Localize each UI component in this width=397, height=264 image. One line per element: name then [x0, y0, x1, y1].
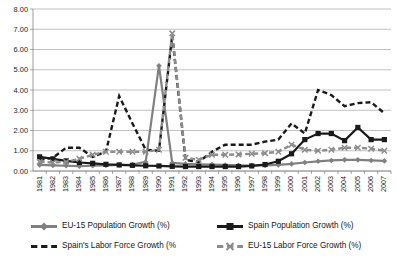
y-axis-tick-label: 8.00 [14, 5, 28, 14]
y-axis-tick-label: 7.00 [14, 25, 28, 34]
x-axis-tick-label: 1985 [88, 176, 97, 192]
data-point-marker [368, 158, 374, 164]
data-point-marker [329, 158, 335, 164]
data-point-marker [342, 157, 348, 163]
x-axis-tick-label: 2004 [339, 176, 348, 192]
data-point-marker [143, 163, 148, 168]
line-chart-plot: 0.001.002.003.004.005.006.007.008.001981… [0, 0, 397, 216]
data-point-marker [130, 163, 135, 168]
data-point-marker [289, 161, 295, 167]
x-axis-tick-label: 1990 [154, 176, 163, 192]
data-point-marker [103, 162, 108, 167]
data-point-marker [382, 137, 387, 142]
x-axis-tick-label: 1994 [207, 176, 216, 192]
x-axis-tick-label: 1995 [220, 176, 229, 192]
x-axis-tick-label: 1981 [35, 176, 44, 192]
legend-swatch-x-icon [216, 241, 244, 252]
x-axis-tick-label: 1982 [48, 176, 57, 192]
x-axis-tick-label: 2006 [366, 176, 375, 192]
y-axis-tick-label: 0.00 [14, 167, 28, 176]
data-point-marker [302, 137, 307, 142]
data-point-marker [170, 164, 175, 169]
legend-item-0[interactable]: EU-15 Population Growth (%) [30, 221, 216, 232]
data-point-marker [183, 164, 188, 169]
data-point-marker [355, 125, 360, 130]
data-point-marker [355, 157, 361, 163]
x-axis-tick-label: 2007 [379, 176, 388, 192]
x-axis-tick-label: 2000 [286, 176, 295, 192]
x-axis-tick-label: 2001 [300, 176, 309, 192]
chart-container: 0.001.002.003.004.005.006.007.008.001981… [0, 0, 397, 264]
x-axis-tick-label: 1996 [233, 176, 242, 192]
chart-legend: EU-15 Population Growth (%)Spain Populat… [30, 216, 390, 256]
legend-item-2[interactable]: Spain's Labor Force Growth (% [30, 241, 216, 252]
data-point-marker [315, 131, 320, 136]
data-point-marker [156, 163, 161, 168]
x-axis-tick-label: 1998 [260, 176, 269, 192]
y-axis-tick-label: 6.00 [14, 45, 28, 54]
legend-item-1[interactable]: Spain Population Growth (%) [216, 221, 390, 232]
x-axis-tick-label: 1983 [61, 176, 70, 192]
x-axis-tick-label: 1986 [101, 176, 110, 192]
data-point-marker [196, 164, 201, 169]
data-point-marker [262, 162, 267, 167]
x-axis-tick-label: 2003 [326, 176, 335, 192]
data-point-marker [117, 162, 122, 167]
data-point-marker [369, 137, 374, 142]
data-point-marker [329, 131, 334, 136]
data-point-marker [289, 151, 294, 156]
x-axis-tick-label: 1987 [114, 176, 123, 192]
x-axis-tick-label: 1988 [127, 176, 136, 192]
data-point-marker [223, 164, 228, 169]
x-axis-tick-label: 2005 [353, 176, 362, 192]
y-axis-tick-label: 5.00 [14, 65, 28, 74]
series-line-3 [40, 33, 385, 162]
data-point-marker [382, 158, 388, 164]
y-axis-tick-label: 3.00 [14, 106, 28, 115]
x-axis-tick-label: 2002 [313, 176, 322, 192]
legend-label: Spain's Labor Force Growth (% [62, 242, 176, 250]
legend-swatch-square-icon [216, 221, 244, 232]
legend-item-3[interactable]: EU-15 Labor Force Growth (%) [216, 241, 390, 252]
series-line-2 [40, 35, 385, 162]
data-point-marker [276, 159, 281, 164]
x-axis-tick-label: 1992 [180, 176, 189, 192]
y-axis-tick-label: 1.00 [14, 146, 28, 155]
x-axis-tick-label: 1999 [273, 176, 282, 192]
x-axis-tick-label: 1993 [194, 176, 203, 192]
data-point-marker [90, 161, 95, 166]
legend-label: EU-15 Population Growth (%) [62, 222, 170, 230]
data-point-marker [249, 163, 254, 168]
legend-swatch-diamond-icon [30, 221, 58, 232]
x-axis-tick-label: 1989 [141, 176, 150, 192]
legend-swatch-none-icon [30, 241, 58, 252]
data-point-marker [315, 158, 321, 164]
data-point-marker [302, 160, 308, 166]
data-point-marker [156, 63, 162, 69]
y-axis-tick-label: 4.00 [14, 86, 28, 95]
legend-label: Spain Population Growth (%) [248, 222, 354, 230]
x-axis-tick-label: 1984 [74, 176, 83, 192]
x-axis-tick-label: 1991 [167, 176, 176, 192]
data-point-marker [209, 164, 214, 169]
data-point-marker [342, 138, 347, 143]
data-point-marker [236, 164, 241, 169]
legend-label: EU-15 Labor Force Growth (%) [248, 242, 361, 250]
y-axis-tick-label: 2.00 [14, 126, 28, 135]
x-axis-tick-label: 1997 [247, 176, 256, 192]
